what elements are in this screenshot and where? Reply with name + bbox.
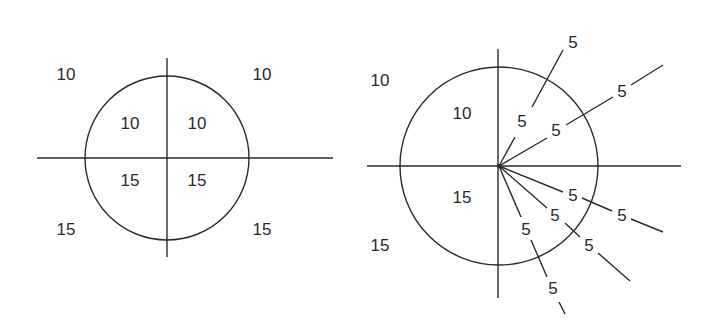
radial-ray-1: 5 5 (499, 33, 578, 167)
right-diagram: 10 10 15 15 5 5 5 5 5 5 (367, 33, 681, 315)
right-center-point (497, 164, 501, 168)
left-label-inner-top-left: 10 (121, 114, 140, 133)
diagram-canvas: 10 10 10 10 15 15 15 15 10 10 15 15 5 5 … (0, 0, 707, 333)
left-label-inner-bottom-left: 15 (121, 171, 140, 190)
radial-ray-4: 5 5 (499, 166, 630, 281)
ray1-inner-label: 5 (517, 112, 526, 131)
ray4-outer-label: 5 (584, 236, 593, 255)
ray5-outer-label: 5 (548, 279, 557, 298)
ray3-outer-label: 5 (617, 206, 626, 225)
left-label-outer-top-right: 10 (253, 65, 272, 84)
left-label-inner-bottom-right: 15 (188, 171, 207, 190)
left-diagram: 10 10 10 10 15 15 15 15 (37, 58, 333, 257)
ray5-inner-label: 5 (521, 220, 530, 239)
ray2-inner-label: 5 (551, 121, 560, 140)
right-label-outer-bottom-left: 15 (371, 236, 390, 255)
ray2-outer-label: 5 (617, 82, 626, 101)
left-label-inner-top-right: 10 (188, 114, 207, 133)
ray4-inner-label: 5 (550, 206, 559, 225)
right-label-outer-top-left: 10 (371, 71, 390, 90)
right-label-inner-top-left: 10 (453, 104, 472, 123)
ray1-outer-label: 5 (568, 33, 577, 52)
left-label-outer-bottom-right: 15 (253, 220, 272, 239)
right-label-inner-bottom-left: 15 (453, 188, 472, 207)
left-label-outer-bottom-left: 15 (57, 220, 76, 239)
left-label-outer-top-left: 10 (57, 65, 76, 84)
ray3-inner-label: 5 (568, 186, 577, 205)
